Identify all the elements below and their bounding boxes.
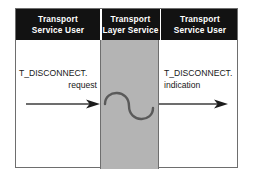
diagram-frame: Transport Service User Transport Layer S…: [15, 8, 238, 168]
diagram-canvas: Transport Service User Transport Layer S…: [0, 0, 254, 182]
arrow-request: [26, 99, 100, 108]
arrow-indication: [159, 99, 228, 108]
service-provider-squiggle-icon: [105, 93, 153, 119]
diagram-vectors: [16, 9, 239, 169]
